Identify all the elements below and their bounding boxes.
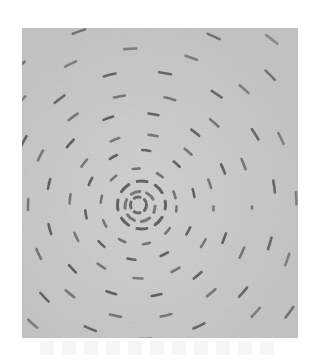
film-grain-texture (22, 28, 298, 338)
concentric-rings-graphic (22, 28, 298, 338)
vortex-photograph (22, 28, 298, 338)
bleed-through-text (40, 341, 280, 355)
